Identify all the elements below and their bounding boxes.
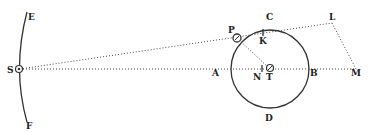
label-s: S [7, 65, 14, 75]
label-c: C [266, 12, 273, 22]
body-t [267, 65, 274, 72]
label-l: L [329, 12, 336, 22]
label-p: P [228, 25, 235, 35]
label-e: E [28, 12, 35, 22]
label-f: F [26, 121, 33, 131]
label-t: T [266, 72, 273, 82]
line-l-m [332, 23, 356, 69]
label-k: K [259, 36, 268, 46]
line-s-l [20, 23, 332, 69]
label-b: B [310, 68, 318, 78]
label-a: A [211, 68, 220, 78]
body-p [233, 34, 241, 42]
label-m: M [351, 68, 361, 78]
label-d: D [265, 113, 273, 123]
label-n: N [253, 72, 261, 82]
orbit-diagram: E F S P C K L A N T B M D [0, 0, 387, 132]
body-s [16, 66, 23, 73]
